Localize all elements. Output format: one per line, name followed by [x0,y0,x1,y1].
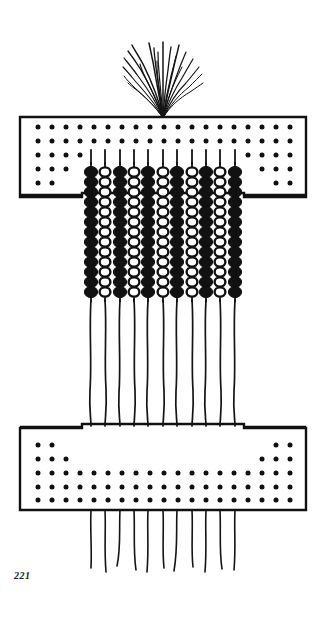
bead-strand-field [84,162,241,302]
bead-column-filled [199,166,212,297]
plate-figure: 221 [0,0,326,628]
plate-number-label: 221 [14,570,31,581]
bead-column-filled [228,166,241,297]
bead-column-filled [84,166,97,297]
bead-column-filled [113,166,126,297]
lower-band-panel [20,424,306,510]
bead-column-filled [141,166,154,297]
bead-column-filled [170,166,183,297]
artifact-illustration [0,0,326,628]
